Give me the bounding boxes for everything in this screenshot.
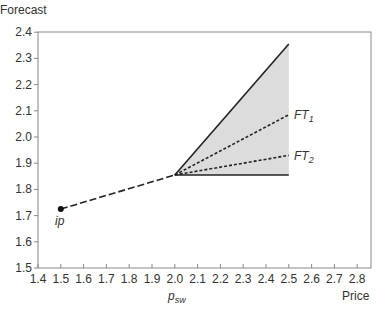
y-tick-label: 2.1 <box>15 104 32 118</box>
x-tick-label: 1.9 <box>144 272 161 286</box>
x-tick-label: 2.7 <box>326 272 343 286</box>
psw-annotation: psw <box>167 289 186 305</box>
x-tick-label: 2.5 <box>280 272 297 286</box>
y-axis-ticks: 1.51.61.71.81.92.02.12.22.32.4 <box>15 25 38 275</box>
x-tick-label: 1.4 <box>30 272 47 286</box>
y-tick-label: 2.0 <box>15 130 32 144</box>
x-tick-label: 1.6 <box>75 272 92 286</box>
y-tick-label: 2.4 <box>15 25 32 39</box>
x-tick-label: 2.8 <box>349 272 366 286</box>
y-tick-label: 1.5 <box>15 261 32 275</box>
x-axis-title: Price <box>342 289 370 303</box>
x-tick-label: 2.1 <box>189 272 206 286</box>
x-tick-label: 2.3 <box>235 272 252 286</box>
plot-area <box>58 44 289 212</box>
x-tick-label: 2.2 <box>212 272 229 286</box>
series-path-from-ip <box>61 175 175 209</box>
y-tick-label: 1.8 <box>15 182 32 196</box>
y-tick-label: 2.3 <box>15 51 32 65</box>
x-tick-label: 1.7 <box>98 272 115 286</box>
x-tick-label: 1.5 <box>52 272 69 286</box>
y-tick-label: 1.6 <box>15 235 32 249</box>
y-tick-label: 1.7 <box>15 209 32 223</box>
ip-point-marker <box>58 206 64 212</box>
x-tick-label: 2.0 <box>166 272 183 286</box>
x-tick-label: 1.8 <box>121 272 138 286</box>
y-tick-label: 2.2 <box>15 78 32 92</box>
y-axis-title: Forecast <box>0 3 47 17</box>
ip-label: ip <box>55 214 65 228</box>
forecast-price-chart: 1.41.51.61.71.81.92.02.12.22.32.42.52.62… <box>0 0 387 310</box>
chart-container: 1.41.51.61.71.81.92.02.12.22.32.42.52.62… <box>0 0 387 310</box>
x-axis-ticks: 1.41.51.61.71.81.92.02.12.22.32.42.52.62… <box>30 264 366 286</box>
ft2-label: FT2 <box>294 149 314 165</box>
x-tick-label: 2.4 <box>258 272 275 286</box>
x-tick-label: 2.6 <box>303 272 320 286</box>
y-tick-label: 1.9 <box>15 156 32 170</box>
ft1-label: FT1 <box>294 108 314 124</box>
